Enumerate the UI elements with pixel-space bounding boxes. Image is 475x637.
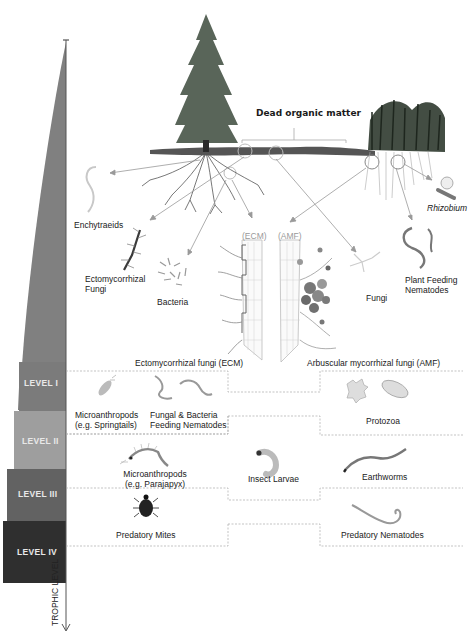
spruce-tree-icon: [175, 14, 238, 152]
predatory-mite-icon: [133, 495, 159, 518]
springtails-label: Microanthropods (e.g. Springtails): [75, 410, 138, 430]
predatory-nematodes-label: Predatory Nematodes: [341, 530, 424, 540]
ectomycorrhizal-fungi-icon: [121, 228, 146, 270]
fungal-bacterial-nematode-icon: [180, 381, 212, 395]
dead-organic-matter-label: Dead organic matter: [256, 108, 361, 118]
plant-feeding-nematodes-label: Plant Feeding Nematodes: [405, 275, 457, 295]
ecm-root-icon: [218, 240, 262, 360]
amf-root-tag: (AMF): [278, 231, 302, 241]
enchytraeids-label: Enchytraeids: [74, 220, 123, 230]
trophic-wedge: [22, 42, 66, 365]
insect-larva-icon: [257, 451, 277, 475]
protozoa-label: Protozoa: [366, 416, 400, 426]
parajapyx-label: Microanthropods (e.g. Parajapyx): [120, 469, 190, 489]
predatory-nematode-icon: [352, 505, 400, 523]
amf-root-icon: [280, 240, 336, 362]
level-2-label: LEVEL II: [22, 436, 59, 446]
level-1-label: LEVEL I: [24, 378, 58, 388]
tree-roots-icon: [142, 152, 264, 214]
plant-nematode-icon: [428, 229, 432, 252]
rhizobium-label: Rhizobium: [427, 203, 467, 213]
dead-organic-bracket: [242, 128, 346, 143]
flow-arrows: [110, 157, 432, 255]
predatory-mites-label: Predatory Mites: [116, 530, 176, 540]
bacteria-icon: [158, 258, 186, 285]
amf-caption: Arbuscular mycorrhizal fungi (AMF): [307, 358, 440, 368]
fungi-label: Fungi: [366, 293, 387, 303]
rhizobium-icon: [438, 177, 454, 198]
ectomycorrhizal-fungi-label: Ectomycorrhizal Fungi: [85, 274, 145, 294]
trophic-level-axis-label: TROPHIC LEVEL: [50, 546, 62, 626]
ecm-root-tag: (ECM): [242, 231, 267, 241]
fungi-hyphae-icon: [350, 252, 380, 272]
plant-nematode-icon: [404, 228, 424, 268]
fungal-bacterial-nematode-icon: [155, 376, 172, 399]
earthworms-label: Earthworms: [362, 472, 407, 482]
enchytraeid-icon: [87, 167, 96, 212]
grassland-vegetation-icon: [368, 100, 445, 152]
magnifier-circle: [365, 155, 379, 169]
springtail-icon: [96, 375, 116, 397]
ecm-caption: Ectomycorrhizal fungi (ECM): [135, 358, 243, 368]
diagram-canvas: [0, 0, 475, 637]
fungal-bacterial-nematodes-label: Fungal & Bacteria Feeding Nematodes: [150, 410, 227, 430]
earthworm-icon: [344, 449, 406, 472]
parajapyx-icon: [120, 443, 168, 466]
protozoa-icon: [347, 377, 411, 403]
level-3-label: LEVEL III: [18, 489, 57, 499]
bacteria-label: Bacteria: [157, 297, 188, 307]
soil-surface: [150, 147, 375, 156]
insect-larvae-label: Insect Larvae: [248, 474, 299, 484]
